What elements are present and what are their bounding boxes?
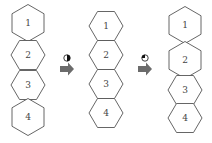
hexagon-2: 2 [89, 41, 123, 70]
hexagon-4: 4 [89, 99, 123, 128]
hexagon-label: 3 [182, 85, 188, 95]
hexagon-transformation-diagram: 1234 1234 1234 [0, 0, 212, 143]
transition-2 [138, 55, 152, 76]
column-after-step-2: 1234 [168, 7, 202, 133]
hexagon-label: 1 [103, 21, 109, 31]
quarter-circle-icon [142, 55, 148, 61]
right-arrow-icon [138, 63, 152, 76]
hexagon-label: 2 [182, 55, 188, 65]
hexagon-label: 2 [103, 50, 109, 60]
column-after-step-1: 1234 [89, 12, 123, 128]
hexagon-label: 3 [103, 79, 109, 89]
hexagon-label: 1 [182, 20, 188, 30]
hexagon-4: 4 [168, 104, 202, 133]
hexagon-2: 2 [11, 41, 45, 70]
transition-1 [60, 55, 74, 76]
hexagon-4: 4 [12, 99, 44, 136]
half-circle-icon [64, 55, 70, 61]
hexagon-label: 4 [182, 113, 188, 123]
hexagon-3: 3 [168, 76, 202, 105]
hexagon-1: 1 [169, 7, 201, 44]
hexagon-1: 1 [89, 12, 123, 41]
hexagon-label: 3 [25, 80, 31, 90]
hexagon-label: 2 [25, 50, 31, 60]
hexagon-label: 4 [103, 108, 109, 118]
hexagon-3: 3 [89, 70, 123, 99]
hexagon-label: 4 [25, 112, 31, 122]
hexagon-1: 1 [12, 5, 44, 42]
column-initial: 1234 [11, 5, 45, 136]
hexagon-label: 1 [25, 18, 31, 28]
right-arrow-icon [60, 63, 74, 76]
hexagon-3: 3 [11, 71, 45, 100]
hexagon-2: 2 [169, 42, 201, 79]
